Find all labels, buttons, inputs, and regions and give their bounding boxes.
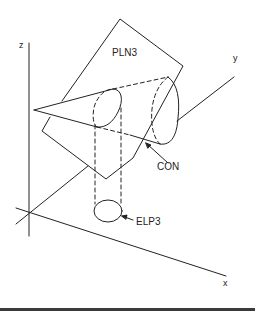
cone-inner-ellipse-hidden <box>93 89 113 127</box>
y-axis-label: y <box>233 53 238 63</box>
cone-label: CON <box>157 161 179 172</box>
cone-lower-edge <box>34 110 97 127</box>
z-axis-label: z <box>19 40 24 50</box>
x-axis <box>16 208 226 276</box>
cone-base-arc <box>160 77 179 144</box>
elp3-arrowhead <box>122 215 127 219</box>
diagram-canvas: z y x PLN3 CON ELP3 <box>0 0 255 311</box>
plane-label: PLN3 <box>112 47 137 58</box>
ellipse-elp3 <box>94 200 122 222</box>
cone-hidden-upper <box>113 77 168 89</box>
x-axis-label: x <box>223 278 228 288</box>
y-axis-back <box>177 77 234 121</box>
y-axis-front <box>16 166 88 224</box>
cone-upper-edge <box>34 89 113 110</box>
plane-pln3 <box>42 19 183 179</box>
cone-hidden-lower <box>97 127 130 135</box>
cone-base-hidden <box>152 77 168 144</box>
ellipse-label: ELP3 <box>136 216 161 227</box>
